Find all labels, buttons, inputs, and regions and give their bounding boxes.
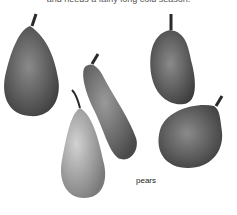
pears-photo	[0, 0, 237, 215]
pear-right-top	[150, 14, 195, 104]
figure-caption: pears	[136, 176, 156, 185]
pear-right-bottom	[158, 96, 222, 168]
pear-left	[4, 14, 59, 116]
